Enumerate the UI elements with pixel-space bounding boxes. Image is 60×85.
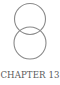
bottom-circle xyxy=(14,27,46,59)
top-circle xyxy=(15,4,46,35)
interlocking-circles-icon xyxy=(0,0,60,64)
chapter-label: CHAPTER 13 xyxy=(0,70,60,81)
